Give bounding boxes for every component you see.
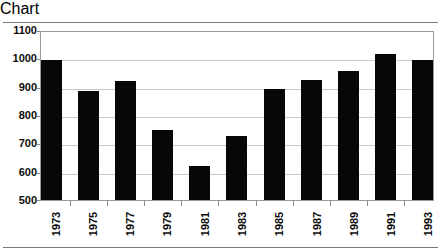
x-axis-tick-label: 1981	[200, 212, 211, 236]
x-axis-tick-label: 1975	[88, 212, 99, 236]
plot-area	[40, 31, 434, 201]
x-axis-label-slot: 1975	[77, 207, 98, 247]
x-axis-label-slot: 1973	[40, 207, 61, 247]
bar-chart-figure: 1100 1000 900 800 700 600 500	[0, 18, 441, 252]
bar[interactable]	[301, 80, 322, 200]
bar[interactable]	[78, 91, 99, 200]
top-divider-rule	[3, 22, 438, 23]
x-axis-tick-label: 1977	[125, 212, 136, 236]
x-axis-tick-mark	[144, 201, 145, 206]
y-axis: 1100 1000 900 800 700 600 500	[0, 31, 37, 201]
x-axis-tick-mark	[293, 201, 294, 206]
y-axis-tick-label: 900	[3, 82, 37, 93]
bar-group	[41, 32, 433, 200]
x-axis-tick-mark	[367, 201, 368, 206]
bar[interactable]	[375, 54, 396, 200]
x-axis-label-slot: 1983	[226, 207, 247, 247]
x-axis-label-slot: 1977	[115, 207, 136, 247]
x-axis-tick-mark	[256, 201, 257, 206]
x-axis-ticks	[40, 201, 434, 206]
bar[interactable]	[412, 60, 433, 200]
x-axis-label-slot: 1981	[189, 207, 210, 247]
x-axis-tick-mark	[330, 201, 331, 206]
bottom-divider-rule	[3, 247, 438, 248]
x-axis-label-slot: 1993	[413, 207, 434, 247]
x-axis-tick-label: 1993	[423, 212, 434, 236]
x-axis-tick-label: 1985	[274, 212, 285, 236]
x-axis-label-slot: 1991	[376, 207, 397, 247]
bar[interactable]	[152, 130, 173, 200]
bar[interactable]	[41, 60, 62, 200]
bar[interactable]	[338, 71, 359, 200]
x-axis-tick-label: 1979	[162, 212, 173, 236]
bar[interactable]	[264, 89, 285, 200]
x-axis-tick-mark	[70, 201, 71, 206]
x-axis-label-slot: 1987	[301, 207, 322, 247]
x-axis-tick-mark	[107, 201, 108, 206]
y-axis-tick-label: 1000	[3, 53, 37, 64]
x-axis: 1973 1975 1977 1979 1981 1983 1985 1987 …	[40, 207, 434, 247]
x-axis-tick-mark	[218, 201, 219, 206]
x-axis-tick-mark	[404, 201, 405, 206]
x-axis-tick-label: 1991	[386, 212, 397, 236]
x-axis-tick-label: 1973	[51, 212, 62, 236]
x-axis-label-slot: 1979	[152, 207, 173, 247]
x-axis-label-slot: 1985	[264, 207, 285, 247]
y-axis-tick-label: 700	[3, 138, 37, 149]
x-axis-label-slot: 1989	[338, 207, 359, 247]
y-axis-tick-label: 1100	[3, 25, 37, 36]
x-axis-tick-mark	[181, 201, 182, 206]
y-axis-tick-label: 800	[3, 110, 37, 121]
bar[interactable]	[189, 166, 210, 200]
x-axis-tick-label: 1987	[312, 212, 323, 236]
x-axis-tick-label: 1983	[237, 212, 248, 236]
x-axis-tick-label: 1989	[349, 212, 360, 236]
y-axis-tick-label: 600	[3, 167, 37, 178]
y-axis-tick-label: 500	[3, 195, 37, 206]
bar[interactable]	[226, 136, 247, 200]
bar[interactable]	[115, 81, 136, 200]
